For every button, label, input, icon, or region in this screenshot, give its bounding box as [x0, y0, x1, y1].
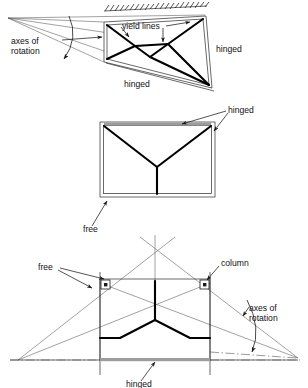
hinged-band-middle: [104, 123, 211, 126]
figure-canvas: yield lines axes of rotation hinged hing…: [0, 0, 308, 388]
label-axes-of-rotation-top-line1: axes of: [11, 36, 39, 46]
free-leaders-bottom: [58, 266, 219, 381]
label-hinged-bottom-top: hinged: [124, 79, 150, 89]
label-axes-of-rotation-bottom-line1: axes of: [249, 303, 277, 313]
label-column-bottom: column: [221, 258, 249, 268]
label-axes-of-rotation-bottom-line2: rotation: [249, 313, 278, 323]
label-hinged-bottom: hinged: [126, 379, 152, 388]
axes-of-rotation-arc-top: [62, 16, 102, 59]
panel-middle: hinged free: [83, 105, 254, 234]
hinged-band-bottom: [100, 358, 210, 361]
column-marker-right: [200, 280, 209, 289]
yield-lines-middle: [104, 126, 211, 194]
label-axes-of-rotation-top-line2: rotation: [11, 46, 40, 56]
column-marker-left: [101, 280, 110, 289]
label-hinged-middle: hinged: [228, 105, 254, 115]
label-free-bottom: free: [38, 262, 53, 272]
yield-line-figure: yield lines axes of rotation hinged hing…: [0, 0, 308, 388]
fixed-support-hatching: [104, 2, 209, 11]
label-hinged-right-top: hinged: [216, 44, 242, 54]
label-yield-lines-top: yield lines: [122, 21, 160, 31]
panel-top: yield lines axes of rotation hinged hing…: [8, 2, 242, 91]
panel-bottom: free column axes of rotation hinged: [10, 235, 300, 388]
label-free-middle: free: [83, 224, 98, 234]
